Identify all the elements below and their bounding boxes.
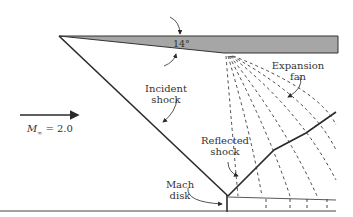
reflected-shock-leader-icon bbox=[228, 162, 238, 176]
mach-disk-label-line1: Mach bbox=[160, 179, 200, 190]
mach-symbol: M bbox=[27, 123, 37, 134]
shock-diagram: 14° Incident shock Expansion fan Reflect… bbox=[0, 0, 353, 217]
mach-subscript: ∞ bbox=[37, 129, 42, 136]
wedge-angle-label: 14° bbox=[173, 38, 190, 49]
slip-line bbox=[228, 197, 336, 200]
reflected-shock-label-line2: shock bbox=[197, 146, 253, 157]
freestream-mach-label: M∞ = 2.0 bbox=[27, 123, 73, 136]
incident-shock-line bbox=[59, 36, 228, 196]
reflected-shock-label: Reflected shock bbox=[197, 135, 253, 157]
incident-shock-label-line1: Incident bbox=[138, 83, 194, 94]
expansion-fan-label-line2: fan bbox=[268, 71, 328, 82]
mach-disk-label: Mach disk bbox=[160, 179, 200, 201]
incident-shock-label-line2: shock bbox=[138, 94, 194, 105]
downstream-dashes bbox=[266, 199, 327, 211]
reflected-shock-label-line1: Reflected bbox=[197, 135, 253, 146]
wedge bbox=[59, 36, 338, 53]
mach-disk-label-line2: disk bbox=[160, 190, 200, 201]
incident-shock-label: Incident shock bbox=[138, 83, 194, 105]
angle-arrow-bottom-icon bbox=[164, 54, 176, 66]
angle-arrow-top-icon bbox=[170, 17, 180, 34]
expansion-fan-label: Expansion fan bbox=[268, 60, 328, 82]
expansion-fan-label-line1: Expansion bbox=[268, 60, 328, 71]
mach-value: = 2.0 bbox=[45, 123, 72, 134]
